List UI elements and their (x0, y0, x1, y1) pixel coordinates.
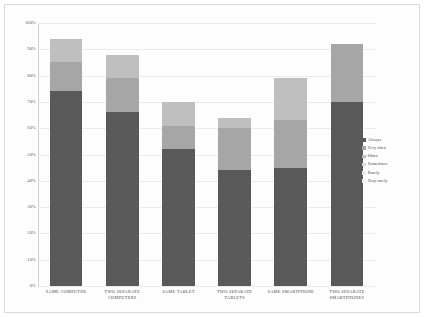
bar-slot (38, 23, 94, 286)
bar-segment[interactable] (218, 128, 251, 170)
legend-label: Very rarely (368, 179, 388, 183)
y-axis-tick-label: 0% (8, 284, 36, 289)
bar-segment[interactable] (50, 91, 83, 286)
x-axis-tick-label: SAME SMARTPHONE (263, 289, 319, 295)
legend-item[interactable]: Often (362, 152, 420, 160)
legend-label: Sometimes (368, 162, 388, 166)
stacked-bar[interactable] (274, 78, 307, 286)
chart-legend: AlwaysVery oftenOftenSometimesRarelyVery… (362, 136, 420, 185)
legend-label: Rarely (368, 171, 380, 175)
y-axis: 100%90%80%70%60%50%40%30%20%10%0% (5, 23, 36, 286)
legend-label: Often (368, 154, 378, 158)
legend-label: Very often (368, 146, 386, 150)
legend-item[interactable]: Rarely (362, 169, 420, 177)
chart-frame: 100%90%80%70%60%50%40%30%20%10%0% SAME C… (4, 4, 420, 313)
y-axis-tick-label: 60% (8, 126, 36, 131)
bar-slot (150, 23, 206, 286)
legend-swatch-icon (362, 155, 366, 159)
x-axis-tick-label: SAME COMPUTER (38, 289, 94, 295)
y-axis-tick-label: 20% (8, 231, 36, 236)
stacked-bar[interactable] (331, 44, 364, 286)
bar-slot (263, 23, 319, 286)
bar-segment[interactable] (218, 170, 251, 286)
x-axis-tick-label: TWO SEPARATE SMARTPHONES (319, 289, 375, 301)
bar-slot (207, 23, 263, 286)
stacked-bar[interactable] (106, 55, 139, 286)
bar-segment[interactable] (50, 39, 83, 63)
y-axis-tick-label: 70% (8, 100, 36, 105)
bar-segment[interactable] (274, 78, 307, 120)
bar-segment[interactable] (106, 112, 139, 286)
legend-swatch-icon (362, 138, 366, 142)
bar-segment[interactable] (331, 44, 364, 102)
legend-item[interactable]: Always (362, 136, 420, 144)
legend-item[interactable]: Very rarely (362, 177, 420, 185)
bar-segment[interactable] (162, 149, 195, 286)
y-axis-tick-label: 50% (8, 152, 36, 157)
bar-slot (94, 23, 150, 286)
legend-item[interactable]: Very often (362, 144, 420, 152)
x-axis-tick-label: SAME TABLET (150, 289, 206, 295)
legend-swatch-icon (362, 179, 366, 183)
chart-screenshot: 100%90%80%70%60%50%40%30%20%10%0% SAME C… (0, 0, 424, 317)
bar-segment[interactable] (162, 102, 195, 126)
stacked-bar[interactable] (50, 39, 83, 286)
bar-segment[interactable] (331, 102, 364, 286)
bar-segment[interactable] (274, 168, 307, 286)
bar-segment[interactable] (274, 120, 307, 167)
stacked-bar[interactable] (162, 102, 195, 286)
x-axis-tick-label: TWO SEPARATE TABLETS (207, 289, 263, 301)
bar-segment[interactable] (106, 55, 139, 79)
y-axis-tick-label: 40% (8, 179, 36, 184)
legend-swatch-icon (362, 146, 366, 150)
y-axis-tick-label: 80% (8, 73, 36, 78)
y-axis-tick-label: 90% (8, 47, 36, 52)
bar-segment[interactable] (218, 118, 251, 129)
y-axis-tick-label: 30% (8, 205, 36, 210)
legend-swatch-icon (362, 171, 366, 175)
bar-segment[interactable] (162, 126, 195, 150)
legend-label: Always (368, 138, 381, 142)
stacked-bar[interactable] (218, 118, 251, 286)
bar-segment[interactable] (106, 78, 139, 112)
bar-segment[interactable] (50, 62, 83, 91)
y-axis-tick-label: 100% (8, 21, 36, 26)
bar-group (38, 23, 375, 286)
legend-swatch-icon (362, 163, 366, 167)
x-axis-tick-label: TWO SEPARATE COMPUTERS (94, 289, 150, 301)
gridline (38, 286, 375, 287)
y-axis-tick-label: 10% (8, 257, 36, 262)
legend-item[interactable]: Sometimes (362, 161, 420, 169)
x-axis-labels: SAME COMPUTERTWO SEPARATE COMPUTERSSAME … (38, 289, 375, 315)
